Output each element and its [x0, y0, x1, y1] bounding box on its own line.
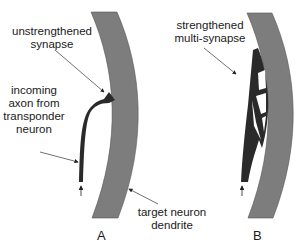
- label-line: strengthened: [170, 19, 250, 32]
- label-target-dendrite: target neuron dendrite: [128, 206, 216, 232]
- label-line: multi-synapse: [170, 32, 250, 45]
- label-line: synapse: [8, 38, 96, 51]
- label-line: unstrengthened: [8, 25, 96, 38]
- label-incoming-axon: incoming axon from transponder neuron: [2, 84, 66, 136]
- pointer-multi-synapse: [204, 48, 236, 74]
- panel-letter-b: B: [253, 228, 262, 243]
- synapse-gap-1: [258, 70, 266, 90]
- label-strengthened-multi-synapse: strengthened multi-synapse: [170, 19, 250, 45]
- label-line: transponder: [2, 110, 66, 123]
- label-line: target neuron: [128, 206, 216, 219]
- label-unstrengthened-synapse: unstrengthened synapse: [8, 25, 96, 51]
- pointer-incoming-axon: [40, 152, 78, 162]
- dendrite-a: [91, 12, 138, 218]
- label-line: axon from: [2, 97, 66, 110]
- panel-letter-a: A: [97, 228, 106, 243]
- label-line: incoming: [2, 84, 66, 97]
- label-line: dendrite: [128, 219, 216, 232]
- label-line: neuron: [2, 123, 66, 136]
- pointer-target-dendrite: [129, 189, 158, 204]
